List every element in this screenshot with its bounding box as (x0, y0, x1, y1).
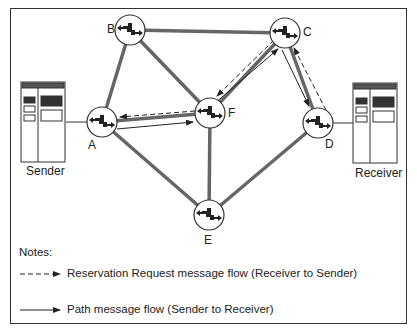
router-icon-D (303, 108, 333, 138)
sender-label: Sender (26, 164, 65, 178)
receiver-computer-icon (353, 83, 397, 163)
node-label-C: C (303, 25, 312, 39)
node-label-A: A (88, 138, 96, 152)
router-icon-F (195, 98, 225, 128)
node-label-F: F (228, 106, 235, 120)
legend-reservation-text: Reservation Request message flow (Receiv… (67, 267, 357, 279)
node-label-D: D (325, 137, 334, 151)
receiver-label: Receiver (355, 166, 402, 180)
sender-computer-icon (21, 82, 65, 162)
router-icon-E (194, 200, 224, 230)
router-icon-C (270, 18, 300, 48)
legend-path-text: Path message flow (Sender to Receiver) (67, 303, 273, 315)
node-label-B: B (107, 22, 115, 36)
notes-title: Notes: (19, 246, 52, 258)
router-icon-A (87, 107, 117, 137)
router-icon-B (115, 15, 145, 45)
node-label-E: E (204, 233, 212, 247)
